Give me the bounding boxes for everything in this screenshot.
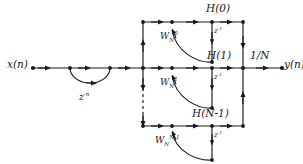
signal-flow-diagram: x(n) z-n WN0 z-1 H(0) WN1 z-1 H(1) WNN-1…: [0, 0, 303, 164]
branch-0-feedback: [172, 22, 212, 62]
branch-n-1-delay-label: z-1: [214, 131, 222, 139]
branch-0-coefficient: WN0: [160, 31, 178, 43]
output-label: y(n): [284, 59, 303, 70]
branch-n-1-coefficient: WNN-1: [155, 135, 179, 147]
comb-delay-arc: [70, 68, 110, 83]
branch-1-feedback: [172, 68, 212, 108]
branch-1-output-label: H(1): [207, 50, 231, 61]
branch-n-1-output-label: H(N-1): [192, 108, 229, 119]
comb-delay-label: z-n: [79, 92, 89, 102]
input-label: x(n): [7, 59, 28, 70]
output-scale-label: 1/N: [250, 50, 269, 61]
branch-1-coefficient: WN1: [160, 77, 178, 89]
branch-0-delay-label: z-1: [214, 27, 222, 35]
diagram-canvas: [0, 0, 303, 164]
branch-1-delay-label: z-1: [214, 73, 222, 81]
branch-0-output-label: H(0): [206, 3, 230, 14]
